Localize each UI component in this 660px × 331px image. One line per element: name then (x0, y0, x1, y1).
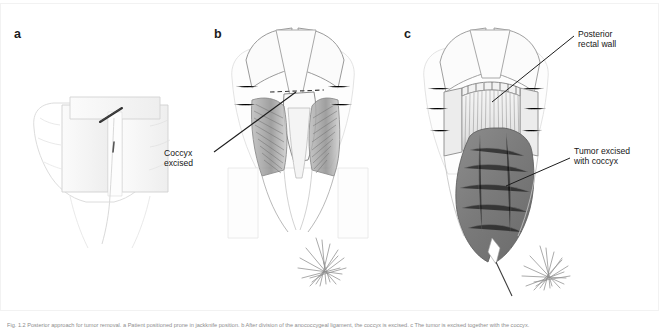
figure-caption: Fig. 1.2 Posterior approach for tumor re… (7, 322, 655, 331)
annotation-tumor-excised-with-coccyx: Tumor excised with coccyx (574, 146, 630, 167)
annotation-coccyx-excised: Coccyx excised (164, 148, 193, 169)
panel-label-a: a (14, 27, 21, 41)
panel-label-b: b (214, 27, 222, 41)
panel-label-c: c (404, 27, 411, 41)
medical-figure: a b c Coccyx excised Posterior rectal wa… (0, 0, 660, 331)
panel-b (200, 0, 390, 308)
annotation-posterior-rectal-wall: Posterior rectal wall (578, 29, 616, 50)
